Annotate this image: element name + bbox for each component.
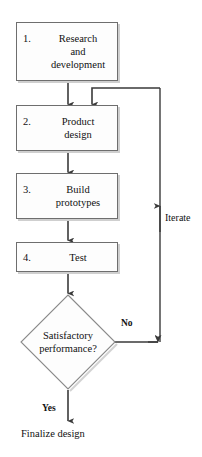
node-content: 3. Build prototypes — [23, 183, 113, 209]
node-number: 3. — [23, 183, 43, 196]
node-number: 4. — [23, 251, 43, 264]
node-label: Product design — [43, 115, 113, 141]
edge-iterate-into-product-design — [92, 88, 160, 105]
node-label: Test — [43, 251, 113, 264]
node-label: Build prototypes — [43, 183, 113, 209]
decision-label-line1: Satisfactory — [43, 329, 93, 342]
node-content: 1. Research and development — [23, 32, 113, 71]
edge-label-yes: Yes — [42, 403, 56, 413]
node-build-prototypes[interactable]: 3. Build prototypes — [16, 173, 118, 219]
node-content: 4. Test — [23, 251, 113, 264]
node-label: Research and development — [43, 32, 113, 71]
decision-satisfactory-performance[interactable]: Satisfactory performance? — [21, 295, 115, 389]
node-content: 2. Product design — [23, 115, 113, 141]
node-product-design[interactable]: 2. Product design — [16, 105, 118, 151]
node-test[interactable]: 4. Test — [16, 242, 118, 272]
flowchart-canvas: 1. Research and development 2. Product d… — [0, 0, 202, 457]
edge-label-no: No — [121, 318, 133, 328]
edge-label-iterate: Iterate — [165, 212, 191, 223]
terminal-finalize-design: Finalize design — [21, 428, 85, 439]
node-number: 1. — [23, 32, 43, 45]
decision-label-line2: performance? — [39, 342, 97, 355]
node-research-and-development[interactable]: 1. Research and development — [16, 22, 118, 81]
decision-label: Satisfactory performance? — [21, 295, 115, 389]
node-number: 2. — [23, 115, 43, 128]
